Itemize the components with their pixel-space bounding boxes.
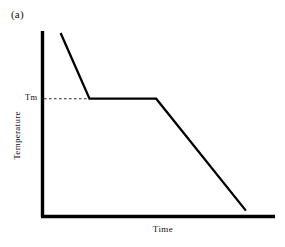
cooling-curve-figure: (a) Temperature Time Tm [0, 0, 285, 247]
cooling-curve-line [61, 33, 246, 211]
plot-area [0, 0, 285, 247]
